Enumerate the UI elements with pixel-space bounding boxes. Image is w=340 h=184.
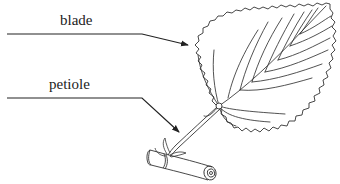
leaf-diagram: blade petiole — [0, 0, 340, 184]
leaf-junction — [216, 103, 222, 109]
petiole — [168, 107, 220, 157]
petiole-leader-line — [7, 98, 179, 132]
twig — [147, 150, 218, 181]
petiole-label: petiole — [49, 77, 90, 92]
blade-leader-line — [7, 34, 188, 45]
blade-label: blade — [60, 13, 92, 28]
leaf-illustration — [0, 0, 340, 184]
stipules — [155, 138, 186, 157]
